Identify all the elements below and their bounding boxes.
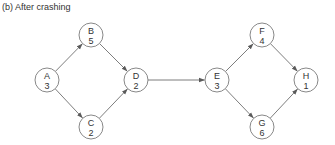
edge-e-f-arrow-icon (225, 44, 253, 72)
node-activity-label: B (88, 26, 94, 36)
edge-f-h-arrow-icon (270, 44, 297, 71)
edge-c-d-arrow-icon (99, 89, 127, 118)
edge-a-b-arrow-icon (55, 44, 82, 71)
edge-e-g-arrow-icon (225, 89, 253, 118)
node-a: A3 (35, 68, 59, 92)
node-duration-label: 2 (88, 128, 93, 138)
node-duration-label: 2 (133, 81, 138, 91)
node-h: H1 (294, 68, 318, 92)
node-g: G6 (250, 115, 274, 139)
node-activity-label: A (44, 71, 50, 81)
edge-g-h-arrow-icon (270, 89, 297, 118)
node-b: B5 (79, 23, 103, 47)
node-duration-label: 5 (88, 36, 93, 46)
edges-layer (55, 43, 297, 118)
node-activity-label: G (258, 118, 265, 128)
node-activity-label: H (303, 71, 310, 81)
node-f: F4 (250, 23, 274, 47)
edge-a-c-arrow-icon (55, 89, 82, 118)
node-duration-label: 3 (214, 81, 219, 91)
activity-network-diagram: A3B5C2D2E3F4G6H1 (0, 0, 335, 145)
node-activity-label: E (214, 71, 220, 81)
node-activity-label: D (133, 71, 140, 81)
node-e: E3 (205, 68, 229, 92)
nodes-layer: A3B5C2D2E3F4G6H1 (35, 23, 318, 139)
node-duration-label: 1 (303, 81, 308, 91)
node-c: C2 (79, 115, 103, 139)
node-duration-label: 4 (259, 36, 264, 46)
node-duration-label: 3 (44, 81, 49, 91)
node-duration-label: 6 (259, 128, 264, 138)
node-d: D2 (124, 68, 148, 92)
edge-b-d-arrow-icon (99, 43, 127, 71)
node-activity-label: F (259, 26, 265, 36)
node-activity-label: C (88, 118, 95, 128)
